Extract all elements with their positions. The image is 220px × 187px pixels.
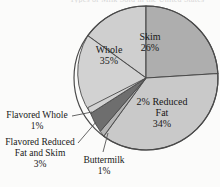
slice-label-skim-percent: 26% <box>130 42 170 53</box>
slice-label-reduced-fat-line2: Fat <box>126 107 198 118</box>
callout-label-buttermilk: Buttermilk 1% <box>74 155 134 177</box>
leader-line-flavored-reduced-fat-and-skim <box>78 122 96 143</box>
callout-label-flavored-whole-percent: 1% <box>0 121 74 132</box>
slice-label-reduced-fat-line1: 2% Reduced <box>126 96 198 107</box>
slice-label-2-percent-reduced-fat: 2% Reduced Fat 34% <box>126 96 198 129</box>
callout-label-flavored-reduced-fat-and-skim: Flavored Reduced Fat and Skim 3% <box>0 137 80 170</box>
slice-label-skim-name: Skim <box>130 31 170 42</box>
callout-label-flavored-whole: Flavored Whole 1% <box>0 110 74 132</box>
pie-chart-figure: Types of Milk Sold in the United States … <box>0 0 220 187</box>
slice-label-reduced-fat-percent: 34% <box>126 118 198 129</box>
slice-label-whole: Whole 35% <box>87 44 131 66</box>
callout-label-flavored-reduced-line2: Fat and Skim <box>0 148 80 159</box>
callout-label-flavored-reduced-line1: Flavored Reduced <box>0 137 80 148</box>
callout-label-buttermilk-name: Buttermilk <box>74 155 134 166</box>
slice-label-whole-percent: 35% <box>87 55 131 66</box>
slice-label-whole-name: Whole <box>87 44 131 55</box>
slice-label-skim: Skim 26% <box>130 31 170 53</box>
leader-line-flavored-whole <box>72 112 92 116</box>
callout-label-flavored-reduced-percent: 3% <box>0 159 80 170</box>
callout-label-flavored-whole-name: Flavored Whole <box>0 110 74 121</box>
callout-label-buttermilk-percent: 1% <box>74 166 134 177</box>
